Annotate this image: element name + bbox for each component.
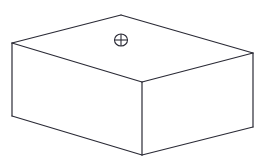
box-diagram [0, 0, 260, 161]
box-drawing [0, 0, 260, 161]
edge-bottom-left [12, 116, 142, 155]
edge-top-back-right [121, 15, 253, 53]
circle-cross-icon [115, 34, 128, 46]
edge-top-front-left [12, 43, 142, 82]
edge-top-front-right [142, 53, 253, 82]
edge-top-back-left [12, 15, 121, 43]
edge-bottom-right [142, 127, 253, 155]
